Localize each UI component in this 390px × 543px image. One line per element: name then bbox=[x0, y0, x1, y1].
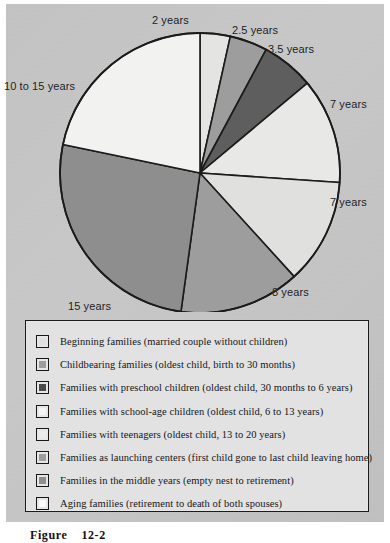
pie-slice-label: 15 years bbox=[68, 300, 111, 312]
legend-swatch bbox=[36, 381, 49, 394]
legend-swatch-fill bbox=[39, 338, 46, 345]
legend-swatch bbox=[36, 474, 49, 487]
legend-item: Aging families (retirement to death of b… bbox=[36, 492, 362, 515]
figure-caption: Figure12-2 bbox=[30, 528, 106, 543]
pie-slice-label: 2.5 years bbox=[232, 24, 278, 36]
legend-item-label: Beginning families (married couple witho… bbox=[60, 336, 287, 347]
pie-chart-svg bbox=[6, 4, 384, 312]
legend-item-label: Families as launching centers (first chi… bbox=[60, 452, 372, 463]
figure-caption-number: 12-2 bbox=[81, 528, 105, 542]
legend-swatch bbox=[36, 335, 49, 348]
pie-slice-label: 3.5 years bbox=[268, 43, 314, 55]
legend-swatch-fill bbox=[39, 431, 46, 438]
legend-item: Families as launching centers (first chi… bbox=[36, 446, 362, 469]
legend-swatch bbox=[36, 451, 49, 464]
legend-item-label: Childbearing families (oldest child, bir… bbox=[60, 359, 295, 370]
pie-slice-label: 8 years bbox=[272, 286, 309, 298]
legend-swatch-fill bbox=[39, 477, 46, 484]
legend-box: Beginning families (married couple witho… bbox=[25, 320, 369, 512]
pie-chart-area bbox=[6, 4, 384, 312]
legend-swatch-fill bbox=[39, 454, 46, 461]
legend-item-label: Aging families (retirement to death of b… bbox=[60, 498, 282, 509]
legend-item: Childbearing families (oldest child, bir… bbox=[36, 353, 362, 376]
legend-swatch bbox=[36, 428, 49, 441]
legend-item-label: Families with school-age children (oldes… bbox=[60, 406, 323, 417]
legend-item: Families with school-age children (oldes… bbox=[36, 400, 362, 423]
legend-item: Beginning families (married couple witho… bbox=[36, 330, 362, 353]
legend-item: Families in the middle years (empty nest… bbox=[36, 469, 362, 492]
legend-item-label: Families with teenagers (oldest child, 1… bbox=[60, 429, 285, 440]
legend-list: Beginning families (married couple witho… bbox=[26, 321, 368, 511]
pie-slice-label: 10 to 15 years bbox=[4, 80, 75, 92]
legend-swatch-fill bbox=[39, 408, 46, 415]
legend-item: Families with teenagers (oldest child, 1… bbox=[36, 423, 362, 446]
legend-swatch-fill bbox=[39, 361, 46, 368]
legend-swatch-fill bbox=[39, 384, 46, 391]
pie-slice bbox=[60, 145, 200, 312]
legend-item: Families with preschool children (oldest… bbox=[36, 376, 362, 399]
pie-slice-group bbox=[60, 33, 340, 312]
pie-slice-label: 7 years bbox=[330, 98, 367, 110]
legend-swatch bbox=[36, 358, 49, 371]
legend-swatch bbox=[36, 405, 49, 418]
legend-item-label: Families in the middle years (empty nest… bbox=[60, 475, 294, 486]
legend-swatch-fill bbox=[39, 500, 46, 507]
pie-slice-label: 2 years bbox=[152, 14, 189, 26]
legend-item-label: Families with preschool children (oldest… bbox=[60, 382, 352, 393]
figure-caption-label: Figure bbox=[30, 528, 67, 542]
legend-swatch bbox=[36, 497, 49, 510]
pie-slice-label: 7 years bbox=[330, 196, 367, 208]
